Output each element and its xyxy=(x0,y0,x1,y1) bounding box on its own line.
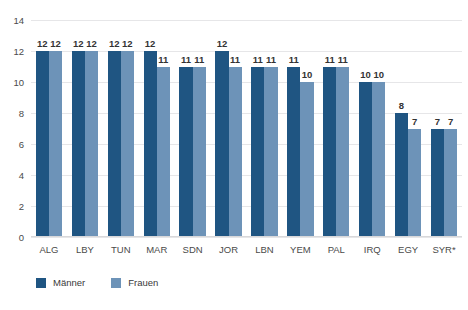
bar-yem-women[interactable]: 10 xyxy=(300,82,313,237)
bar-group: 1211JOR xyxy=(211,20,247,237)
x-axis-tick-label: EGY xyxy=(398,244,418,255)
x-axis-tick-label: SYR* xyxy=(432,244,455,255)
x-axis-tick-label: LBN xyxy=(255,244,273,255)
y-axis-tick-label: 12 xyxy=(13,46,24,57)
bar-egy-women[interactable]: 7 xyxy=(408,129,421,238)
x-axis-tick-label: IRQ xyxy=(364,244,381,255)
bar-value-label: 11 xyxy=(338,54,348,65)
bar-value-label: 10 xyxy=(374,69,385,80)
y-axis-tick-label: 4 xyxy=(19,170,24,181)
bar-group: 1110YEM xyxy=(282,20,318,237)
gridline xyxy=(31,237,462,238)
bar-value-label: 12 xyxy=(122,38,133,49)
bar-egy-men[interactable]: 8 xyxy=(395,113,408,237)
bar-tun-women[interactable]: 12 xyxy=(121,51,134,237)
bar-value-label: 12 xyxy=(86,38,97,49)
bar-sdn-women[interactable]: 11 xyxy=(193,67,206,238)
x-axis-tick-label: TUN xyxy=(111,244,131,255)
bar-group: 1111SDN xyxy=(175,20,211,237)
bar-value-label: 7 xyxy=(448,116,453,127)
bar-group: 1212TUN xyxy=(103,20,139,237)
chart-legend: MännerFrauen xyxy=(36,277,158,288)
bar-value-label: 11 xyxy=(158,54,168,65)
bar-lbn-men[interactable]: 11 xyxy=(251,67,264,238)
legend-label: Männer xyxy=(53,277,85,288)
bar-yem-men[interactable]: 11 xyxy=(287,67,300,238)
plot-area: 02468101214 1212ALG1212LBY1212TUN1211MAR… xyxy=(31,20,462,237)
bar-group: 1111PAL xyxy=(318,20,354,237)
bar-jor-women[interactable]: 11 xyxy=(229,67,242,238)
y-axis-tick-label: 0 xyxy=(19,232,24,243)
y-axis-tick-label: 6 xyxy=(19,139,24,150)
legend-swatch-icon xyxy=(36,278,46,288)
bar-value-label: 11 xyxy=(253,54,263,65)
y-axis-tick-label: 2 xyxy=(19,201,24,212)
bar-value-label: 8 xyxy=(399,100,404,111)
bar-alg-men[interactable]: 12 xyxy=(36,51,49,237)
bar-group: 77SYR* xyxy=(426,20,462,237)
bar-jor-men[interactable]: 12 xyxy=(215,51,228,237)
bar-value-label: 7 xyxy=(412,116,417,127)
x-axis-tick-label: SDN xyxy=(183,244,203,255)
bar-syr-women[interactable]: 7 xyxy=(444,129,457,238)
x-axis-tick-label: JOR xyxy=(219,244,238,255)
bar-value-label: 10 xyxy=(360,69,371,80)
bar-group: 1211MAR xyxy=(139,20,175,237)
x-axis-tick-label: PAL xyxy=(328,244,345,255)
bar-irq-men[interactable]: 10 xyxy=(359,82,372,237)
bar-lbn-women[interactable]: 11 xyxy=(264,67,277,238)
bar-value-label: 10 xyxy=(302,69,313,80)
bar-group: 1111LBN xyxy=(247,20,283,237)
bar-alg-women[interactable]: 12 xyxy=(49,51,62,237)
axis-baseline xyxy=(31,236,462,237)
bar-sdn-men[interactable]: 11 xyxy=(179,67,192,238)
x-axis-tick-label: LBY xyxy=(76,244,94,255)
bar-group: 1212LBY xyxy=(67,20,103,237)
bar-group: 1212ALG xyxy=(31,20,67,237)
bar-group: 1010IRQ xyxy=(354,20,390,237)
x-axis-tick-label: ALG xyxy=(39,244,58,255)
bar-chart: 02468101214 1212ALG1212LBY1212TUN1211MAR… xyxy=(0,0,468,310)
legend-label: Frauen xyxy=(128,277,158,288)
bar-mar-men[interactable]: 12 xyxy=(144,51,157,237)
bar-groups: 1212ALG1212LBY1212TUN1211MAR1111SDN1211J… xyxy=(31,20,462,237)
bar-value-label: 11 xyxy=(181,54,191,65)
y-axis-tick-label: 8 xyxy=(19,108,24,119)
bar-group: 87EGY xyxy=(390,20,426,237)
bar-value-label: 11 xyxy=(194,54,204,65)
bar-lby-women[interactable]: 12 xyxy=(85,51,98,237)
bar-irq-women[interactable]: 10 xyxy=(372,82,385,237)
bar-value-label: 12 xyxy=(73,38,84,49)
bar-pal-men[interactable]: 11 xyxy=(323,67,336,238)
bar-value-label: 11 xyxy=(289,54,299,65)
bar-mar-women[interactable]: 11 xyxy=(157,67,170,238)
bar-value-label: 12 xyxy=(217,38,228,49)
x-axis-tick-label: YEM xyxy=(290,244,311,255)
bar-lby-men[interactable]: 12 xyxy=(72,51,85,237)
legend-swatch-icon xyxy=(111,278,121,288)
bar-value-label: 12 xyxy=(50,38,61,49)
bar-value-label: 11 xyxy=(230,54,240,65)
bar-value-label: 12 xyxy=(109,38,120,49)
bar-value-label: 11 xyxy=(266,54,276,65)
y-axis-tick-label: 10 xyxy=(13,77,24,88)
x-axis-tick-label: MAR xyxy=(146,244,167,255)
bar-tun-men[interactable]: 12 xyxy=(108,51,121,237)
legend-item[interactable]: Männer xyxy=(36,277,85,288)
bar-value-label: 7 xyxy=(435,116,440,127)
legend-item[interactable]: Frauen xyxy=(111,277,158,288)
y-axis-tick-label: 14 xyxy=(13,15,24,26)
bar-value-label: 12 xyxy=(37,38,48,49)
bar-syr-men[interactable]: 7 xyxy=(431,129,444,238)
bar-pal-women[interactable]: 11 xyxy=(336,67,349,238)
bar-value-label: 12 xyxy=(145,38,156,49)
bar-value-label: 11 xyxy=(325,54,335,65)
